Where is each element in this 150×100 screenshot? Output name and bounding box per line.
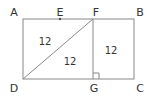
point-label-e: E [57, 7, 64, 18]
geometry-figure [0, 0, 150, 100]
right-angle-marker [93, 73, 99, 79]
point-label-a: A [10, 7, 18, 18]
segment-df [23, 19, 93, 79]
area-label-rectangle-fbcg: 12 [105, 46, 118, 56]
area-label-triangle-adf: 12 [39, 37, 52, 47]
point-label-f: F [93, 7, 99, 18]
area-label-triangle-dfg: 12 [64, 57, 77, 67]
point-label-g: G [90, 83, 99, 94]
point-label-d: D [10, 83, 18, 94]
point-label-c: C [136, 83, 144, 94]
point-label-b: B [136, 7, 144, 18]
